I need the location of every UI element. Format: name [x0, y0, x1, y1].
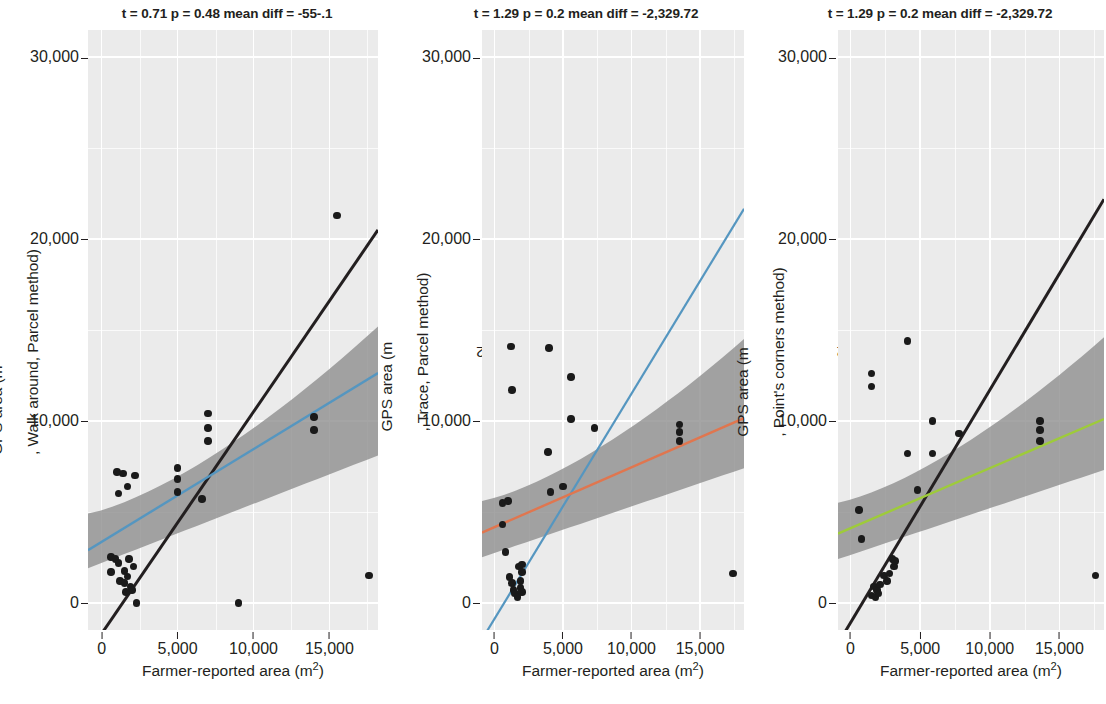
x-tick-mark: [920, 632, 921, 639]
data-point: [204, 437, 212, 445]
data-point: [204, 424, 212, 432]
x-tick-label: 10,000: [965, 632, 1014, 658]
data-point: [499, 521, 507, 529]
y-tick-mark: [829, 58, 836, 59]
plot-area-1: [88, 30, 378, 630]
data-point: [729, 570, 737, 578]
data-point: [676, 437, 684, 445]
data-point: [508, 386, 516, 394]
plot-area-2: [482, 30, 744, 630]
data-point: [507, 343, 515, 351]
data-point: [333, 212, 341, 220]
y-axis-ticks-1: 010,00020,00030,000: [12, 0, 88, 704]
data-point: [545, 344, 553, 352]
data-point: [125, 555, 133, 563]
data-point: [858, 535, 866, 543]
x-tick-mark: [177, 632, 178, 639]
y-tick-label: 30,000: [778, 48, 836, 66]
data-point: [518, 568, 526, 576]
x-tick-mark: [101, 632, 102, 639]
x-tick-label: 10,000: [229, 632, 278, 658]
x-tick-mark: [329, 632, 330, 639]
data-point: [875, 590, 883, 598]
data-point: [1036, 426, 1044, 434]
x-tick-label: 10,000: [607, 632, 656, 658]
x-tick-label: 5,000: [158, 632, 198, 658]
data-point: [567, 415, 575, 423]
y-tick-mark: [81, 603, 88, 604]
data-point: [559, 483, 567, 491]
x-tick-mark: [700, 632, 701, 639]
data-point: [547, 488, 555, 496]
data-point: [122, 588, 130, 596]
data-point: [1036, 437, 1044, 445]
y-axis-ticks-2: 010,00020,00030,000: [404, 0, 480, 704]
data-point: [174, 464, 182, 472]
data-point: [929, 450, 937, 458]
y-axis-ticks-3: 010,00020,00030,000: [760, 0, 836, 704]
data-point: [855, 506, 863, 514]
data-point: [904, 450, 912, 458]
data-point: [914, 486, 922, 494]
data-point: [310, 426, 318, 434]
data-point: [1036, 417, 1044, 425]
data-point: [518, 588, 526, 596]
data-point: [115, 490, 123, 498]
data-point: [591, 424, 599, 432]
y-tick-mark: [473, 239, 480, 240]
scatter-points-3: [838, 30, 1104, 630]
data-point: [929, 417, 937, 425]
x-tick-mark: [989, 632, 990, 639]
x-axis-title-3: Farmer-reported area (m2): [838, 660, 1104, 680]
y-tick-mark: [81, 239, 88, 240]
y-tick-label: 10,000: [30, 412, 88, 430]
x-tick-mark: [850, 632, 851, 639]
y-tick-label: 20,000: [778, 230, 836, 248]
data-point: [119, 470, 127, 478]
data-point: [130, 563, 138, 571]
x-axis-ticks-2: 05,00010,00015,000: [482, 632, 744, 654]
data-point: [131, 472, 139, 480]
superscript-two: 2: [313, 660, 319, 672]
x-tick-mark: [1059, 632, 1060, 639]
y-tick-label: 0: [70, 594, 88, 612]
data-point: [891, 557, 899, 565]
y-tick-mark: [473, 421, 480, 422]
data-point: [502, 548, 510, 556]
x-tick-label: 0: [97, 632, 106, 658]
data-point: [868, 370, 876, 378]
x-tick-label: 5,000: [900, 632, 940, 658]
x-tick-label: 15,000: [1035, 632, 1084, 658]
scatter-points-2: [482, 30, 744, 630]
y-tick-mark: [473, 58, 480, 59]
y-tick-mark: [81, 58, 88, 59]
data-point: [886, 570, 894, 578]
y-tick-mark: [829, 239, 836, 240]
x-tick-mark: [253, 632, 254, 639]
x-tick-label: 0: [846, 632, 855, 658]
superscript-two: 2: [1051, 660, 1057, 672]
data-point: [133, 599, 141, 607]
y-tick-label: 0: [462, 594, 480, 612]
x-axis-ticks-1: 05,00010,00015,000: [88, 632, 378, 654]
data-point: [124, 573, 132, 581]
data-point: [955, 430, 963, 438]
data-point: [174, 488, 182, 496]
x-tick-mark: [494, 632, 495, 639]
x-axis-title-1: Farmer-reported area (m2): [88, 660, 378, 680]
x-tick-label: 15,000: [676, 632, 725, 658]
data-point: [504, 497, 512, 505]
data-point: [365, 572, 373, 580]
y-tick-label: 30,000: [30, 48, 88, 66]
data-point: [310, 413, 318, 421]
x-tick-mark: [562, 632, 563, 639]
y-tick-label: 0: [818, 594, 836, 612]
data-point: [876, 581, 884, 589]
y-tick-label: 10,000: [422, 412, 480, 430]
data-point: [883, 577, 891, 585]
data-point: [204, 410, 212, 418]
x-tick-label: 15,000: [305, 632, 354, 658]
data-point: [676, 428, 684, 436]
data-point: [868, 383, 876, 391]
data-point: [235, 599, 243, 607]
